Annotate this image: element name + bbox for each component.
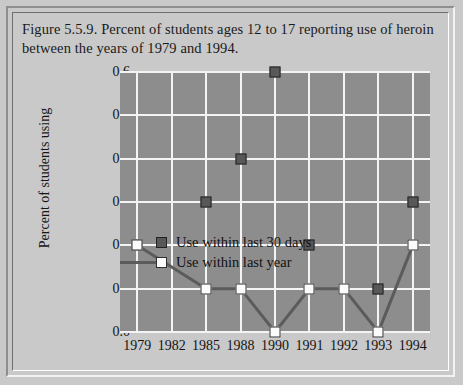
figure-frame: Figure 5.5.9. Percent of students ages 1…	[6, 6, 455, 377]
legend-line-stub	[120, 261, 156, 264]
chart-legend: Use within last 30 days Use within last …	[156, 232, 311, 272]
legend-label-year: Use within last year	[176, 252, 292, 272]
legend-label-30days: Use within last 30 days	[176, 232, 311, 252]
legend-item-year: Use within last year	[156, 252, 311, 272]
marker-use-within-last-30-days	[270, 67, 281, 78]
marker-use-within-last-30-days	[201, 197, 212, 208]
chart: Percent of students using 0.00.10.20.30.…	[16, 66, 448, 366]
x-tick-label: 1994	[383, 338, 443, 354]
marker-use-within-last-year	[132, 240, 143, 251]
marker-use-within-last-30-days	[373, 283, 384, 294]
marker-use-within-last-year	[373, 327, 384, 338]
marker-use-within-last-30-days	[235, 153, 246, 164]
marker-use-within-last-year	[270, 327, 281, 338]
legend-swatch-white-square	[156, 257, 167, 268]
marker-use-within-last-30-days	[407, 197, 418, 208]
figure-caption: Figure 5.5.9. Percent of students ages 1…	[22, 20, 436, 58]
marker-use-within-last-year	[338, 283, 349, 294]
y-axis-label: Percent of students using	[37, 83, 53, 273]
legend-swatch-dark-square	[156, 237, 167, 248]
marker-use-within-last-year	[304, 283, 315, 294]
legend-item-30days: Use within last 30 days	[156, 232, 311, 252]
marker-use-within-last-year	[201, 283, 212, 294]
marker-use-within-last-year	[235, 283, 246, 294]
plot-area: Use within last 30 days Use within last …	[120, 72, 430, 332]
marker-use-within-last-year	[407, 240, 418, 251]
